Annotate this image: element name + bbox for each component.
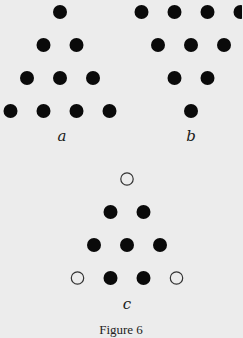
filled-dot [234, 5, 243, 19]
filled-dot [53, 71, 67, 85]
filled-dot [103, 104, 117, 118]
filled-dot [201, 71, 215, 85]
open-dot [170, 272, 182, 284]
figure-canvas [0, 0, 242, 332]
filled-dot [168, 71, 182, 85]
filled-dot [151, 38, 165, 52]
filled-dot [104, 271, 118, 285]
panel-a-label: a [58, 129, 67, 144]
filled-dot [120, 238, 134, 252]
filled-dot [87, 238, 101, 252]
filled-dot [168, 5, 182, 19]
filled-dot [4, 104, 18, 118]
panel-b-label: b [186, 129, 196, 144]
filled-dot [137, 271, 151, 285]
filled-dot [53, 5, 67, 19]
filled-dot [137, 205, 151, 219]
open-dot [71, 272, 83, 284]
filled-dot [153, 238, 167, 252]
panel-c-label: c [123, 297, 131, 312]
open-dot [121, 173, 133, 185]
filled-dot [184, 38, 198, 52]
filled-dot [104, 205, 118, 219]
filled-dot [37, 38, 51, 52]
panel-b [135, 5, 243, 118]
filled-dot [70, 38, 84, 52]
filled-dot [135, 5, 149, 19]
filled-dot [201, 5, 215, 19]
filled-dot [20, 71, 34, 85]
filled-dot [217, 38, 231, 52]
figure-caption: Figure 6 [99, 322, 143, 338]
filled-dot [86, 71, 100, 85]
filled-dot [184, 104, 198, 118]
filled-dot [37, 104, 51, 118]
panel-a [4, 5, 117, 118]
filled-dot [70, 104, 84, 118]
panel-c [71, 173, 182, 285]
